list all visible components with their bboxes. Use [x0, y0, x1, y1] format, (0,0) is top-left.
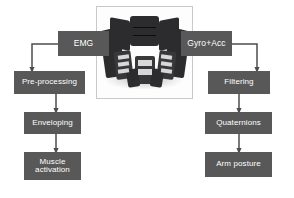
myo-armband-photo — [96, 6, 193, 99]
node-gyro-acc[interactable]: Gyro+Acc — [181, 31, 232, 56]
node-pre-processing[interactable]: Pre-processing — [14, 71, 85, 94]
connector-gyroacc-to-filtering — [232, 44, 257, 70]
node-muscle-activation[interactable]: Muscle activation — [24, 152, 81, 180]
node-filtering[interactable]: Filtering — [208, 71, 270, 94]
node-arm-posture[interactable]: Arm posture — [205, 152, 272, 177]
armband-pod-top-center — [130, 16, 159, 46]
node-emg[interactable]: EMG — [58, 31, 109, 56]
armband-seam-top-a — [133, 27, 156, 28]
armband-contact-center-2 — [138, 69, 152, 75]
node-quaternions[interactable]: Quaternions — [205, 112, 272, 134]
armband-contact-center-1 — [138, 60, 152, 66]
connector-emg-to-preprocessing — [32, 44, 58, 70]
diagram-canvas: EMG Gyro+Acc Pre-processing Enveloping M… — [0, 0, 294, 198]
armband-seam-top-b — [133, 35, 156, 36]
node-enveloping[interactable]: Enveloping — [24, 112, 81, 134]
